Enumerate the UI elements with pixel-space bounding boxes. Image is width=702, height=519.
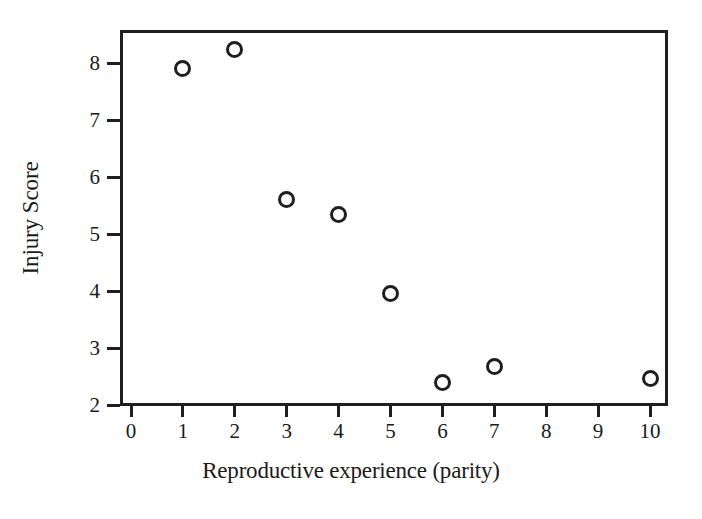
y-axis-tick-label: 5 [62, 223, 100, 245]
x-axis-tick [493, 406, 496, 417]
y-axis-tick [107, 62, 120, 65]
x-axis-tick-label: 1 [163, 418, 203, 444]
x-axis-tick-label: 9 [578, 418, 618, 444]
x-axis-tick [597, 406, 600, 417]
x-axis-title: Reproductive experience (parity) [0, 458, 702, 484]
y-axis-title: Injury Score [18, 161, 44, 274]
y-axis-tick [107, 119, 120, 122]
x-axis-tick [130, 406, 133, 417]
y-axis-tick [107, 347, 120, 350]
x-axis-tick-label: 8 [526, 418, 566, 444]
x-axis-tick [545, 406, 548, 417]
y-axis-tick [107, 233, 120, 236]
y-axis-tick [107, 176, 120, 179]
y-axis-tick-label: 6 [62, 166, 100, 188]
y-axis-tick-label: 7 [62, 109, 100, 131]
y-axis-tick-label: 2 [62, 394, 100, 416]
x-axis-tick-label: 6 [422, 418, 462, 444]
x-axis-tick-label: 3 [267, 418, 307, 444]
x-axis-tick-label: 10 [630, 418, 670, 444]
x-axis-tick [181, 406, 184, 417]
y-axis-tick [107, 290, 120, 293]
y-axis-tick-label: 3 [62, 337, 100, 359]
plot-frame [120, 30, 668, 406]
x-axis-tick [441, 406, 444, 417]
x-axis-tick [233, 406, 236, 417]
x-axis-tick [389, 406, 392, 417]
x-axis-tick [285, 406, 288, 417]
x-axis-tick [337, 406, 340, 417]
x-axis-tick-label: 2 [215, 418, 255, 444]
x-axis-tick-label: 0 [111, 418, 151, 444]
y-axis-tick [107, 404, 120, 407]
x-axis-tick [649, 406, 652, 417]
y-axis-title-wrap: Injury Score [14, 30, 48, 406]
y-axis-tick-label: 8 [62, 52, 100, 74]
y-axis-tick-label: 4 [62, 280, 100, 302]
x-axis-tick-label: 7 [474, 418, 514, 444]
x-axis-tick-label: 5 [371, 418, 411, 444]
x-axis-tick-label: 4 [319, 418, 359, 444]
scatter-chart-figure: 012345678910 2345678 Reproductive experi… [0, 0, 702, 519]
